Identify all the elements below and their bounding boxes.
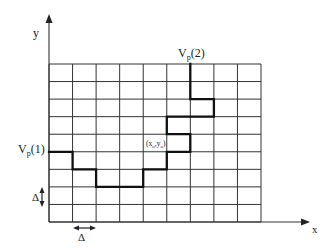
start-label-tail: (1) [31,142,45,156]
end-point-label: Vp(2) [178,46,205,62]
delta-left-arrow-icon [73,226,79,231]
x-axis-label: x [312,223,318,235]
start-point-label: Vp(1) [18,142,45,158]
staircase-grid-diagram: y x Vp(1) Vp(2) (xo,yo) Δ Δ [0,0,335,248]
delta-vertical-indicator: Δ [32,187,45,207]
y-axis-label: y [33,26,39,40]
y-axis-arrow-icon [46,14,53,23]
end-label-tail: (2) [191,46,205,60]
delta-vertical-label: Δ [32,191,39,203]
x-axis-arrow-icon [301,219,310,226]
delta-up-arrow-icon [40,187,45,193]
delta-right-arrow-icon [90,226,96,231]
start-label-base: V [18,142,27,156]
origin-close: ) [163,139,166,148]
delta-horizontal-indicator: Δ [73,226,96,244]
delta-horizontal-label: Δ [78,231,85,243]
origin-point-label: (xo,yo) [146,139,166,149]
delta-down-arrow-icon [40,201,45,207]
end-label-base: V [178,46,187,60]
digital-path [49,64,214,187]
